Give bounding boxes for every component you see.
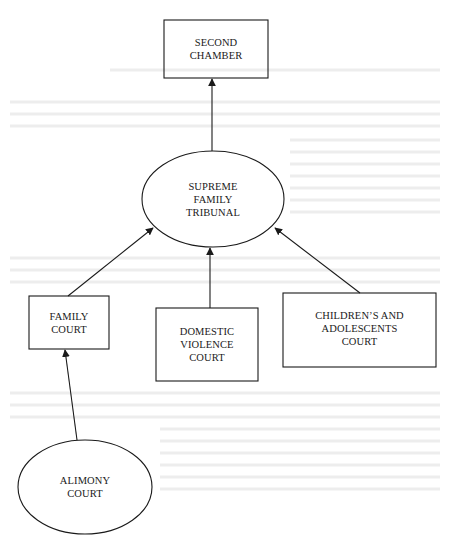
edge-childrens-to-supreme	[275, 228, 360, 293]
alimony-court-label: ALIMONY COURT	[18, 440, 152, 534]
family-court-label: FAMILY COURT	[29, 296, 109, 349]
edge-family-to-supreme	[68, 228, 153, 296]
domestic-violence-court-label: DOMESTIC VIOLENCE COURT	[156, 308, 258, 381]
edge-alimony-to-family	[65, 350, 77, 440]
second-chamber-label: SECOND CHAMBER	[164, 20, 268, 78]
childrens-adolescents-court-label: CHILDREN’S AND ADOLESCENTS COURT	[283, 291, 436, 365]
supreme-family-tribunal-label: SUPREME FAMILY TRIBUNAL	[142, 151, 284, 247]
